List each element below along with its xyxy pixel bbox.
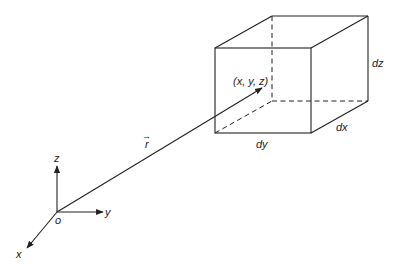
y-axis-label: y xyxy=(104,206,112,218)
dx-label: dx xyxy=(336,121,348,133)
diagram-svg: (x, y, z) dz dx dy r → o z y x xyxy=(0,0,398,273)
differential-volume-diagram: (x, y, z) dz dx dy r → o z y x xyxy=(0,0,398,273)
origin-label: o xyxy=(55,214,61,226)
hidden-edge-bottom-left xyxy=(215,101,272,133)
z-axis-label: z xyxy=(53,152,60,164)
point-label: (x, y, z) xyxy=(233,75,269,87)
edge-top-right-depth xyxy=(311,16,368,48)
position-vector-r xyxy=(57,88,262,212)
x-axis xyxy=(27,212,57,248)
r-vector-arrow-icon: → xyxy=(142,131,151,141)
edge-top-left-depth xyxy=(215,16,272,48)
x-axis-label: x xyxy=(15,248,22,260)
cube-front-face xyxy=(215,48,311,133)
dz-label: dz xyxy=(372,57,384,69)
dy-label: dy xyxy=(256,138,269,150)
